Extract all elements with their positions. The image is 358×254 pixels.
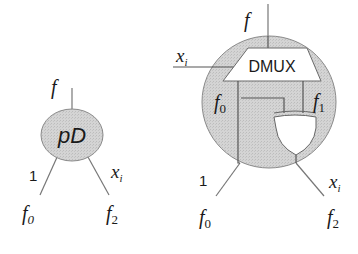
- pd-node-label: pD: [57, 123, 86, 148]
- dmux-select-label: xi: [175, 45, 188, 68]
- left-edge-1-label: 1: [29, 167, 37, 184]
- right-child-f2-label: f2: [327, 206, 339, 231]
- left-edge-xi-wire: [88, 157, 109, 195]
- left-child-f2-label: f2: [106, 202, 118, 227]
- left-child-f0-label: f0: [22, 202, 35, 227]
- left-edge-1-wire: [40, 155, 58, 195]
- right-top-output-label: f: [244, 9, 252, 32]
- right-edge-xi-label: xi: [328, 171, 341, 194]
- left-pd-node-group: pD f 1 xi f0 f2: [22, 76, 123, 227]
- left-edge-xi-label: xi: [110, 161, 123, 184]
- pd-decomposition-diagram: pD f 1 xi f0 f2 DMUX f x: [0, 0, 358, 254]
- dmux-label: DMUX: [248, 58, 295, 75]
- right-edge-1-label: 1: [199, 172, 207, 189]
- right-child-f0-label: f0: [199, 206, 211, 231]
- right-expanded-node-group: DMUX f xi f0 f1 1 xi f0 f2: [173, 4, 341, 231]
- right-edge-xi-wire: [296, 163, 324, 196]
- right-edge-1-wire: [216, 163, 240, 196]
- left-top-output-label: f: [51, 76, 59, 99]
